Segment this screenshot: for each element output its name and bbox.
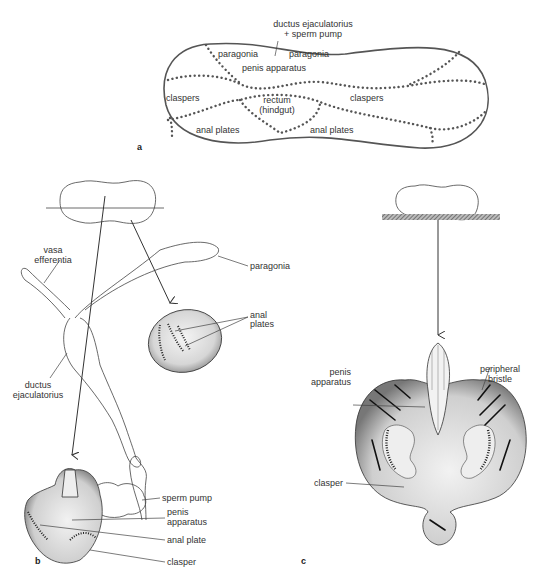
label-ductus-ejaculatorius: ductus ejaculatorius (273, 19, 353, 29)
leader-clasper-b (90, 550, 165, 562)
genitalia-b-penis (62, 470, 78, 497)
arrow-to-anal-plates (131, 220, 170, 303)
label-apparatus-c: apparatus (311, 377, 352, 387)
label-bristle: bristle (488, 374, 512, 384)
leader-sperm-pump (142, 498, 160, 500)
region-paragonia-right: paragonia (289, 49, 329, 59)
region-claspers-right: claspers (350, 93, 384, 103)
leader-ductus-b (50, 353, 67, 378)
label-sperm-pump-b: sperm pump (162, 493, 212, 503)
region-penis-apparatus: penis apparatus (242, 63, 307, 73)
sperm-pump-duct (130, 456, 147, 520)
label-ductus: ductus (25, 380, 52, 390)
region-hindgut: (hindgut) (259, 105, 295, 115)
label-clasper-b: clasper (167, 557, 196, 567)
section-slab-c (382, 214, 500, 220)
leader-paragonia (218, 256, 248, 266)
region-rectum: rectum (263, 95, 291, 105)
panel-letter-c: c (301, 556, 306, 566)
panel-letter-a: a (137, 142, 143, 152)
panel-c: penis apparatus peripheral bristle clasp… (301, 185, 526, 566)
panel-b: vasa efferentia paragonia anal plates du… (13, 181, 290, 567)
label-ejaculatorius: ejaculatorius (13, 390, 64, 400)
label-vasa: vasa (43, 245, 62, 255)
panel-letter-b: b (35, 556, 41, 566)
region-anal-plates-left: anal plates (196, 125, 240, 135)
mini-cross-section-b (60, 181, 156, 224)
panel-a: ductus ejaculatorius + sperm pump parago… (137, 19, 488, 152)
label-apparatus-b: apparatus (167, 517, 208, 527)
label-penis-b: penis (167, 507, 189, 517)
label-sperm-pump: + sperm pump (284, 29, 342, 39)
region-paragonia-left: paragonia (218, 49, 258, 59)
region-anal-plates-right: anal plates (310, 125, 354, 135)
label-paragonia: paragonia (250, 261, 290, 271)
vasa-efferentia-tube (21, 268, 70, 318)
ductus-ejaculatorius-body (64, 318, 136, 462)
label-anal-plate-b: anal plate (167, 535, 206, 545)
label-plates: plates (250, 319, 275, 329)
label-peripheral: peripheral (480, 364, 520, 374)
label-efferentia: efferentia (34, 255, 71, 265)
label-clasper-c: clasper (314, 478, 343, 488)
region-claspers-left: claspers (166, 93, 200, 103)
label-penis-c: penis (329, 367, 351, 377)
anal-plates-drawing (141, 301, 229, 380)
